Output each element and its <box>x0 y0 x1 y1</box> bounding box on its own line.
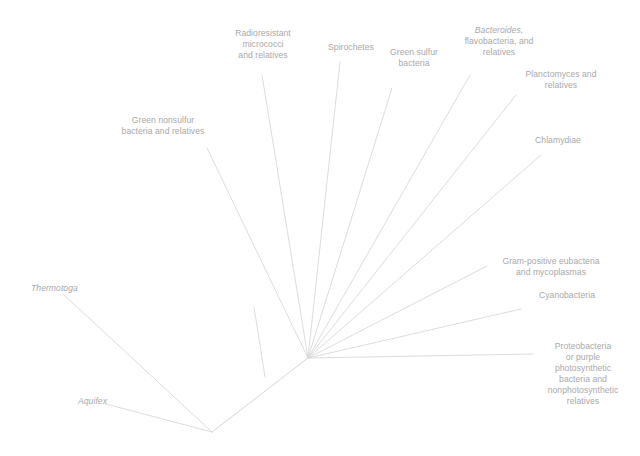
branch-aquifex <box>106 404 212 432</box>
phylogenetic-tree-figure: Green nonsulfurbacteria and relativesRad… <box>0 0 640 456</box>
taxon-label-green-sulfur-bacteria: Green sulfurbacteria <box>378 47 450 69</box>
taxon-label-line: Planctomyces and <box>513 69 609 80</box>
taxon-label-line: Green sulfur <box>378 47 450 58</box>
taxon-label-thermotoga: Thermotoga <box>31 283 111 294</box>
taxon-label-line: Proteobacteria <box>533 341 633 352</box>
taxon-label-line: bacteria <box>378 58 450 69</box>
branch-spirochetes <box>308 62 340 358</box>
taxon-label-green-nonsulfur: Green nonsulfurbacteria and relatives <box>113 115 213 137</box>
taxon-label-line: Bacteroides, <box>453 25 545 36</box>
branch-bacteroides <box>308 75 470 358</box>
taxon-label-line: and relatives <box>223 50 303 61</box>
taxon-label-cyanobacteria: Cyanobacteria <box>527 290 607 301</box>
taxon-label-bacteroides-flavobacteria: Bacteroides,flavobacteria, andrelatives <box>453 25 545 58</box>
taxon-label-line: flavobacteria, and <box>453 36 545 47</box>
trunk-hub-to-node <box>212 358 308 432</box>
taxon-label-line: Chlamydiae <box>523 135 593 146</box>
taxon-label-line: Spirochetes <box>318 42 384 53</box>
branch-thermotoga <box>63 294 212 432</box>
taxon-label-line: nonphotosynthetic <box>533 385 633 396</box>
taxon-label-line: Thermotoga <box>31 283 111 294</box>
taxon-label-proteobacteria: Proteobacteriaor purplephotosyntheticbac… <box>533 341 633 407</box>
taxon-label-line: bacteria and relatives <box>113 126 213 137</box>
taxon-label-radioresistant-micrococci: Radioresistantmicrococciand relatives <box>223 28 303 61</box>
branch-internal-stem <box>254 307 265 377</box>
taxon-label-line: Cyanobacteria <box>527 290 607 301</box>
branch-planctomyces <box>308 95 516 358</box>
branch-cyanobacteria <box>308 309 521 358</box>
taxon-label-line: relatives <box>513 80 609 91</box>
branch-green-sulfur <box>308 88 392 358</box>
taxon-label-line: bacteria and <box>533 374 633 385</box>
taxon-label-planctomyces: Planctomyces andrelatives <box>513 69 609 91</box>
taxon-label-chlamydiae: Chlamydiae <box>523 135 593 146</box>
taxon-label-line: relatives <box>533 396 633 407</box>
taxon-label-line: Green nonsulfur <box>113 115 213 126</box>
branch-proteobacteria <box>308 354 533 358</box>
taxon-label-aquifex: Aquifex <box>78 396 138 407</box>
taxon-label-gram-positive-eubacteria: Gram-positive eubacteriaand mycoplasmas <box>487 256 615 278</box>
taxon-label-line: Aquifex <box>78 396 138 407</box>
taxon-label-line: Gram-positive eubacteria <box>487 256 615 267</box>
taxon-label-line: or purple <box>533 352 633 363</box>
taxon-label-line: Radioresistant <box>223 28 303 39</box>
taxon-label-spirochetes: Spirochetes <box>318 42 384 53</box>
branch-radioresistant <box>262 75 308 358</box>
taxon-label-line: micrococci <box>223 39 303 50</box>
taxon-label-line: photosynthetic <box>533 363 633 374</box>
taxon-label-line: and mycoplasmas <box>487 267 615 278</box>
taxon-label-line: relatives <box>453 47 545 58</box>
